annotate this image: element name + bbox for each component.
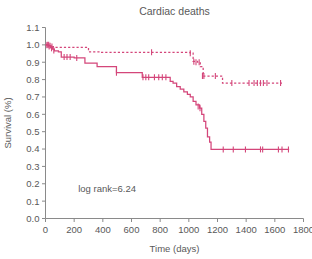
x-tick-label: 800 (152, 224, 168, 235)
x-tick-label: 400 (95, 224, 111, 235)
log-rank-annotation: log rank=6.24 (78, 183, 136, 194)
y-tick-label: 0.6 (26, 109, 39, 120)
y-tick-label: 0.0 (26, 213, 39, 224)
y-tick-label: 0.1 (26, 196, 39, 207)
x-tick-label: 200 (66, 224, 82, 235)
survival-chart: Cardiac deaths0.00.10.20.30.40.50.60.70.… (0, 0, 312, 259)
y-tick-label: 1.0 (26, 39, 39, 50)
y-tick-label: 0.9 (26, 57, 39, 68)
y-tick-label: 0.4 (26, 143, 39, 154)
y-tick-label: 0.7 (26, 91, 39, 102)
x-tick-label: 600 (124, 224, 140, 235)
chart-title: Cardiac deaths (139, 5, 210, 17)
y-tick-label: 0.8 (26, 74, 39, 85)
y-tick-label: 0.5 (26, 126, 39, 137)
x-tick-label: 1200 (207, 224, 228, 235)
x-tick-label: 1800 (293, 224, 312, 235)
y-axis-title: Survival (%) (2, 97, 13, 148)
y-tick-label: 0.2 (26, 178, 39, 189)
survival-curve-solid-group (46, 45, 290, 150)
x-tick-label: 1600 (264, 224, 285, 235)
x-tick-label: 1400 (236, 224, 257, 235)
x-axis-title: Time (days) (150, 243, 200, 254)
chart-figure: Cardiac deaths0.00.10.20.30.40.50.60.70.… (0, 0, 312, 259)
x-tick-label: 1000 (178, 224, 199, 235)
x-tick-label: 0 (43, 224, 48, 235)
y-tick-label: 0.3 (26, 161, 39, 172)
y-tick-label: 1.1 (26, 22, 39, 33)
